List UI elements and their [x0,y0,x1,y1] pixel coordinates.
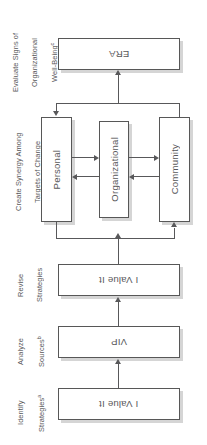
connector-personal-bottom-drop [56,222,57,239]
connector-synergy-bus-bottom [56,238,174,239]
connector-analyze-to-revise-line [118,302,119,326]
node-era-label: ERA [109,49,129,60]
connector-identify-to-analyze-line [118,364,119,388]
node-identify-label: I Value It [99,399,138,410]
connector-revise-to-synergy-line [118,238,119,264]
node-era[interactable]: ERA [58,38,180,70]
connector-synergy-bus-top [56,103,180,104]
node-revise[interactable]: I Value It [58,264,180,296]
stage-label-identify-footnote: a [36,394,42,397]
connector-community-bottom-riser [174,228,175,239]
stage-label-analyze-line2: Sources [37,340,46,368]
connector-organizational-to-community-arrowhead [154,155,159,161]
node-identify[interactable]: I Value It [58,388,180,420]
stage-label-revise-line2: Strategies [35,268,44,302]
stage-label-identify-line2: Strategies [37,397,46,431]
stage-label-evaluate: Evaluate Signs of Organizational Well-Be… [2,14,32,110]
connector-organizational-to-personal-line [77,176,99,177]
node-analyze[interactable]: VIP [58,326,180,358]
stage-label-analyze: Analyze Sourcesb [7,325,29,379]
node-revise-label: I Value It [99,275,138,286]
stage-label-identify: Identify Strategiesa [7,386,29,440]
connector-synergy-to-era-arrowhead [115,70,121,75]
connector-personal-to-organizational-line [72,157,94,158]
node-analyze-label: VIP [111,337,127,348]
node-personal[interactable]: Personal [41,117,72,222]
stage-label-analyze-footnote: b [36,337,42,340]
node-community[interactable]: Community [159,117,190,222]
connector-feed-to-community-arrowhead [171,222,177,227]
connector-community-to-organizational-line [134,176,159,177]
connector-analyze-to-revise-arrowhead [115,297,121,302]
node-organizational[interactable]: Organizational [99,121,129,218]
connector-identify-to-analyze-arrowhead [115,359,121,364]
stage-label-synergy-line1: Create Synergy Among [14,133,23,211]
connector-synergy-to-era-line [118,75,119,103]
stage-label-identify-line1: Identify [16,401,25,426]
connector-synergy-bus-right-drop [179,103,180,117]
connector-organizational-to-community-line [129,157,154,158]
connector-community-to-organizational-arrowhead [129,174,134,180]
connector-personal-to-organizational-arrowhead [94,155,99,161]
node-community-label: Community [169,144,180,194]
stage-label-evaluate-footnote: c [49,42,55,45]
connector-synergy-to-personal-arrowhead [53,111,59,116]
stage-label-analyze-line1: Analyze [16,339,25,366]
stage-label-revise: Revise Strategies [7,258,29,312]
connector-revise-to-synergy-arrowhead [115,233,121,238]
node-organizational-label: Organizational [109,137,120,202]
stage-label-revise-line1: Revise [16,273,25,296]
stage-label-evaluate-line2: Organizational [30,37,39,86]
connector-organizational-to-personal-arrowhead [72,174,77,180]
node-personal-label: Personal [51,150,62,189]
diagram-canvas: Evaluate Signs of Organizational Well-Be… [0,0,207,445]
stage-label-evaluate-line1: Evaluate Signs of [11,32,20,91]
stage-label-synergy: Create Synergy Among Targets of Change [5,118,27,226]
